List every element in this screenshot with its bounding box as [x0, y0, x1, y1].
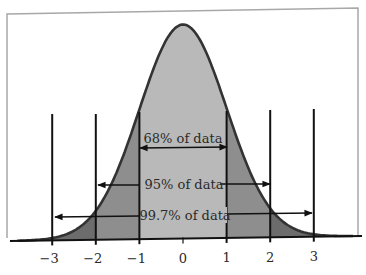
tick-label: 1	[222, 250, 230, 265]
arrow-997-left	[55, 216, 139, 217]
tick-label: 3	[310, 249, 318, 264]
tick-label: 2	[266, 250, 274, 265]
tick-label: −2	[83, 251, 102, 266]
x-tick-labels: −3−2−10123	[40, 249, 318, 266]
normal-distribution-chart: −3−2−10123 68% of data 95% of data 99.7%…	[0, 0, 366, 275]
label-68: 68% of data	[144, 131, 223, 146]
tick-label: 0	[179, 251, 187, 266]
tick-label: −3	[40, 251, 59, 266]
arrow-68	[140, 147, 227, 148]
label-95: 95% of data	[145, 177, 224, 192]
tick-label: −1	[127, 251, 146, 266]
arrow-997-right	[226, 213, 312, 214]
label-997: 99.7% of data	[139, 208, 230, 223]
